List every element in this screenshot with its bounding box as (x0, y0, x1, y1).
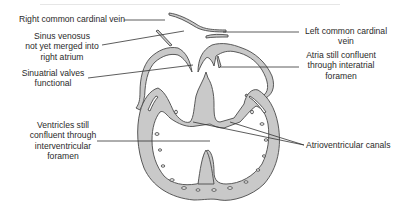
label-right-common-cardinal-vein: Right common cardinal vein (19, 14, 125, 24)
label-left-common-cardinal-vein: Left common cardinal vein (301, 26, 391, 47)
sinus-venosus-strand (156, 30, 172, 46)
label-atrioventricular-canals: Atrioventricular canals (306, 140, 391, 150)
label-atria-confluent: Atria still confluent through interatria… (301, 50, 381, 81)
label-sinuatrial-valves: Sinuatrial valves functional (18, 68, 88, 89)
leader-sinuatrial-valves (88, 65, 193, 78)
right-common-cardinal-vein-shape (169, 13, 226, 32)
heart-illustration (136, 13, 279, 200)
left-common-cardinal-vein-shape (206, 34, 228, 38)
label-ventricles-confluent: Ventricles still confluent through inter… (27, 120, 99, 161)
leader-sinus-venosus (102, 31, 184, 45)
label-sinus-venosus: Sinus venosus not yet merged into right … (22, 31, 102, 62)
interatrial-septum (217, 56, 221, 68)
